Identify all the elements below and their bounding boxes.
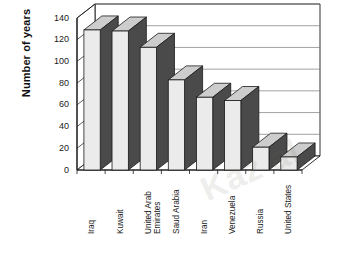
x-axis-tick-label: Emirates bbox=[153, 202, 162, 234]
bar-front-face bbox=[253, 147, 269, 170]
x-axis-tick-label: Saud Arabia bbox=[172, 189, 181, 234]
x-axis-tick-label: Iran bbox=[200, 220, 209, 234]
x-axis-tick-label: Venezuela bbox=[228, 196, 237, 234]
x-axis-tick-label: Kuwait bbox=[116, 209, 125, 234]
bar-front-face bbox=[196, 97, 212, 170]
bar-front-face bbox=[112, 31, 128, 170]
bar-front-face bbox=[84, 30, 100, 170]
bar-front-face bbox=[140, 47, 156, 170]
x-axis-tick-label: Iraq bbox=[87, 220, 96, 234]
bar-front-face bbox=[168, 80, 184, 170]
x-axis-tick-label: United Arab bbox=[144, 191, 153, 234]
bar-chart: Number of years 140120100806040200 IraqK… bbox=[0, 0, 354, 258]
bar-front-face bbox=[281, 157, 297, 170]
bar-front-face bbox=[225, 101, 241, 170]
x-axis-tick-label: Russia bbox=[256, 209, 265, 234]
x-axis-tick-label: United States bbox=[284, 185, 293, 234]
